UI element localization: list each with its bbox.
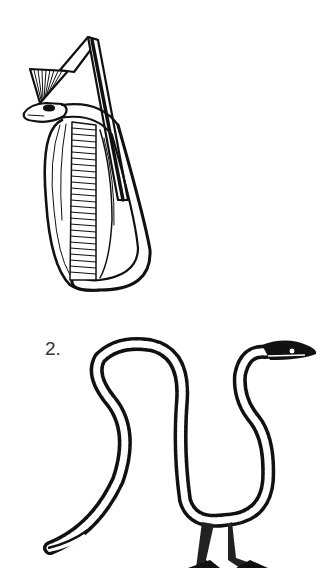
walking-serpent-illustration <box>0 0 335 587</box>
